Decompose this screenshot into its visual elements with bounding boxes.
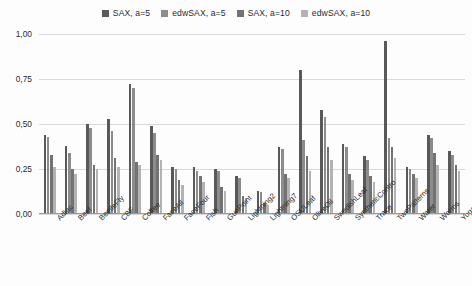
x-tick-label: Trace <box>374 216 380 222</box>
bar <box>181 185 184 214</box>
bar-group <box>273 34 294 214</box>
x-tick-label: Beef <box>76 216 82 222</box>
bar-group <box>337 34 358 214</box>
bar-group <box>167 34 188 214</box>
y-tick-label: 0,25 <box>16 164 32 174</box>
bar-group <box>295 34 316 214</box>
bar-group <box>103 34 124 214</box>
y-tick-label: 0,00 <box>16 209 32 219</box>
legend-entry[interactable]: SAX, a=5 <box>102 8 150 18</box>
legend-label: edwSAX, a=10 <box>312 8 370 18</box>
legend-swatch-icon <box>301 10 308 17</box>
y-axis: 1,000,750,500,250,00 <box>0 34 36 214</box>
bar-group <box>82 34 103 214</box>
x-tick-label: Lightning7 <box>268 216 274 222</box>
legend-label: edwSAX, a=5 <box>172 8 225 18</box>
x-tick-label: Water <box>417 216 423 222</box>
x-tick-label: Fish <box>204 216 210 222</box>
legend-entry[interactable]: edwSAX, a=10 <box>301 8 370 18</box>
x-tick-label: Coffee <box>140 216 146 222</box>
bar-group <box>188 34 209 214</box>
x-tick-label: Yoga <box>459 216 465 222</box>
x-tick-label: SyntheticContro <box>353 216 359 222</box>
bar <box>224 191 227 214</box>
bar-chart: SAX, a=5edwSAX, a=5SAX, a=10edwSAX, a=10… <box>0 0 472 286</box>
legend-swatch-icon <box>102 10 109 17</box>
bar-group <box>401 34 422 214</box>
y-tick-label: 0,50 <box>16 119 32 129</box>
bar-group <box>145 34 166 214</box>
x-tick-label: Adiac <box>55 216 61 222</box>
bar-group <box>39 34 60 214</box>
bar-group <box>231 34 252 214</box>
x-tick-label: Worms <box>438 216 444 222</box>
bar-series-container <box>39 34 465 214</box>
y-tick-label: 1,00 <box>16 29 32 39</box>
x-tick-label: Lightning2 <box>246 216 252 222</box>
bar-group <box>209 34 230 214</box>
x-tick-label: TwoPatterns <box>395 216 401 222</box>
x-tick-label: FaceFour <box>182 216 188 222</box>
chart-legend: SAX, a=5edwSAX, a=5SAX, a=10edwSAX, a=10 <box>0 8 472 18</box>
x-tick-label: FaceAll <box>161 216 167 222</box>
bar-group <box>444 34 465 214</box>
bar <box>53 167 56 214</box>
legend-label: SAX, a=10 <box>248 8 290 18</box>
bar <box>138 165 141 214</box>
plot-area <box>39 34 465 214</box>
bar <box>96 169 99 214</box>
legend-swatch-icon <box>237 10 244 17</box>
bar-group <box>60 34 81 214</box>
bar-group <box>316 34 337 214</box>
x-tick-label: BeetleFly <box>97 216 103 222</box>
legend-entry[interactable]: SAX, a=10 <box>237 8 290 18</box>
bar-group <box>252 34 273 214</box>
y-tick-label: 0,75 <box>16 74 32 84</box>
x-tick-label: SwedishLeaf <box>332 216 338 222</box>
x-tick-label: GunPoint <box>225 216 231 222</box>
legend-label: SAX, a=5 <box>113 8 150 18</box>
legend-swatch-icon <box>161 10 168 17</box>
x-tick-label: OSULeaf <box>289 216 295 222</box>
x-tick-label: CBF <box>119 216 125 222</box>
x-tick-label: OliveOil <box>310 216 316 222</box>
bar-group <box>124 34 145 214</box>
legend-entry[interactable]: edwSAX, a=5 <box>161 8 225 18</box>
x-axis: AdiacBeefBeetleFlyCBFCoffeeFaceAllFaceFo… <box>39 216 465 286</box>
